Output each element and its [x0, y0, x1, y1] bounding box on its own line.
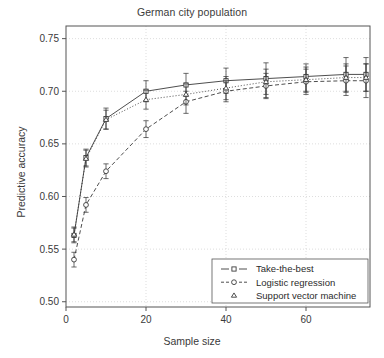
x-axis-ticks: 0204060: [63, 307, 312, 325]
chart-figure: German city population Predictive accura…: [0, 0, 384, 358]
svg-text:60: 60: [300, 314, 312, 325]
series-support-vector-machine: [71, 64, 368, 242]
legend-item-label: Support vector machine: [256, 290, 356, 301]
svg-text:0.60: 0.60: [40, 191, 60, 202]
plot-area: 0.500.550.600.650.700.75 0204060 Take-th…: [0, 0, 384, 358]
data-series-layer: [71, 58, 368, 267]
y-axis-ticks: 0.500.550.600.650.700.75: [40, 33, 66, 307]
svg-text:40: 40: [220, 314, 232, 325]
legend-item-label: Logistic regression: [256, 277, 335, 288]
svg-text:0.55: 0.55: [40, 244, 60, 255]
svg-text:0.65: 0.65: [40, 138, 60, 149]
series-logistic-regression: [71, 64, 368, 267]
svg-text:20: 20: [140, 314, 152, 325]
svg-text:0.75: 0.75: [40, 33, 60, 44]
svg-text:0: 0: [63, 314, 69, 325]
svg-text:0.70: 0.70: [40, 86, 60, 97]
legend-item-label: Take-the-best: [256, 263, 314, 274]
series-take-the-best: [71, 58, 368, 243]
chart-legend: Take-the-bestLogistic regressionSupport …: [212, 259, 368, 303]
svg-text:0.50: 0.50: [40, 296, 60, 307]
